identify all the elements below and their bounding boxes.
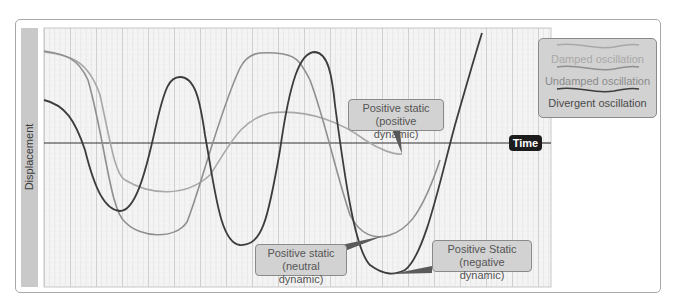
legend-item-damped: Damped oscillation [539, 53, 656, 65]
legend-swatch-divergent [557, 88, 639, 92]
callout-line1: Positive Static [437, 243, 527, 256]
callout-line2: (neutral dynamic) [260, 260, 342, 286]
callout-negative-dynamic: Positive Static (negative dynamic) [432, 240, 532, 272]
callout-positive-dynamic: Positive static (positive dynamic) [348, 99, 444, 131]
callout-line1: Positive static [353, 102, 439, 115]
legend-swatch-damped [557, 44, 639, 48]
legend-swatch-undamped [557, 66, 639, 70]
callout-line1: Positive static [260, 247, 342, 260]
callout-line2: (negative dynamic) [437, 256, 527, 282]
legend: Damped oscillation Undamped oscillation … [538, 38, 657, 118]
callout-line2: (positive dynamic) [353, 115, 439, 141]
callout-neutral-dynamic: Positive static (neutral dynamic) [255, 244, 347, 276]
legend-item-undamped: Undamped oscillation [539, 75, 656, 87]
legend-item-divergent: Divergent oscillation [539, 97, 656, 109]
time-axis-label: Time [509, 135, 542, 151]
